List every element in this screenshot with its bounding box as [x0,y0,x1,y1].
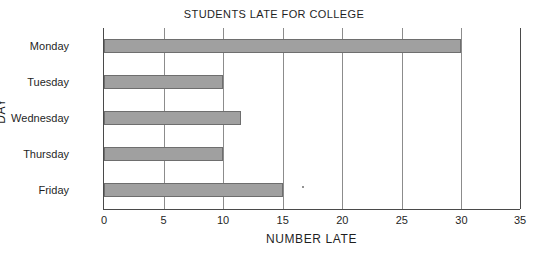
bar-thursday[interactable] [104,147,223,161]
bar-monday[interactable] [104,39,461,53]
bar-friday[interactable] [104,183,283,197]
ytick-label-wednesday: Wednesday [11,112,69,124]
bar-wednesday[interactable] [104,111,241,125]
chart-title: STUDENTS LATE FOR COLLEGE [0,8,548,20]
y-axis-label: DAY [0,98,8,124]
gridline-30 [461,28,462,209]
ytick-label-friday: Friday [38,184,69,196]
ytick-label-tuesday: Tuesday [27,76,69,88]
xtick-label-35: 35 [514,214,526,226]
ytick-label-thursday: Thursday [23,148,69,160]
gridline-20 [342,28,343,209]
gridline-25 [402,28,403,209]
axis-right [520,28,522,209]
xtick-label-10: 10 [217,214,229,226]
xtick-label-20: 20 [336,214,348,226]
bar-tuesday[interactable] [104,75,223,89]
plot-area: 0 5 10 15 20 25 30 35 Monday Tuesday Wed… [103,28,520,210]
gridline-15 [283,28,284,209]
ytick-label-monday: Monday [30,40,69,52]
xtick-label-5: 5 [161,214,167,226]
xtick-label-25: 25 [396,214,408,226]
x-axis-label: NUMBER LATE [103,232,520,246]
stray-mark [302,186,304,188]
xtick-label-15: 15 [277,214,289,226]
xtick-label-30: 30 [455,214,467,226]
xtick-label-0: 0 [101,214,107,226]
bar-chart: STUDENTS LATE FOR COLLEGE 0 5 10 15 20 2… [0,0,548,257]
